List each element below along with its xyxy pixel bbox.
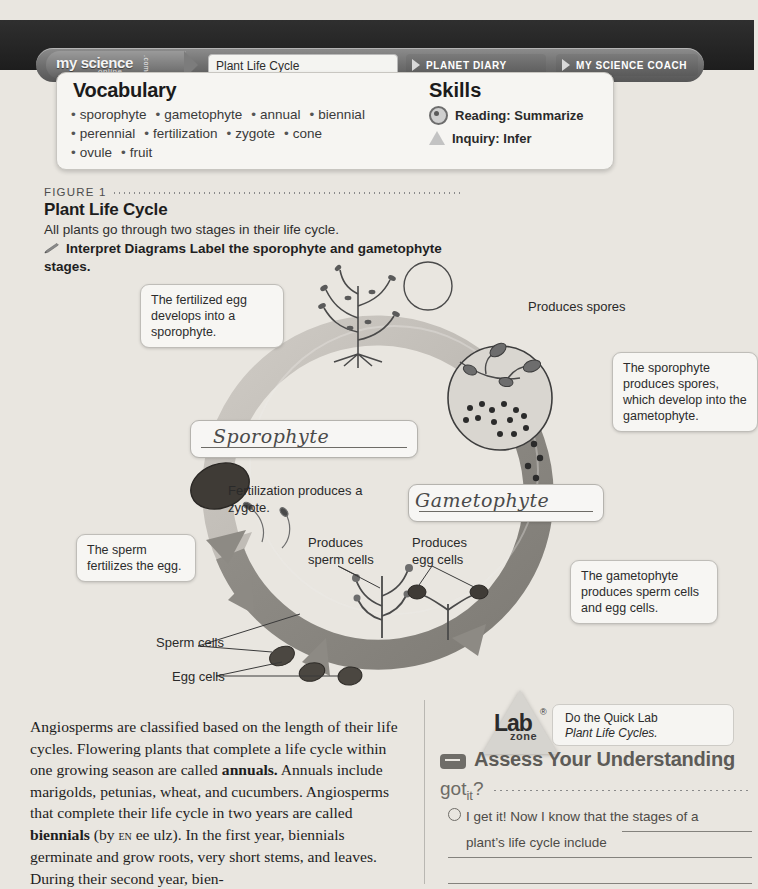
lab-zone-callout[interactable]: Lab ® zone Do the Quick Lab Plant Life C…: [482, 690, 742, 738]
label-produces-egg-cells: Produces egg cells: [412, 534, 492, 568]
callout-sperm-fertilizes-egg: The sperm fertilizes the egg.: [76, 534, 196, 582]
skill-item-reading: Reading: Summarize: [429, 105, 584, 125]
column-divider: [424, 700, 425, 884]
answer-blank-line[interactable]: [448, 883, 752, 884]
answer-underline: [419, 511, 593, 512]
answer-field-sporophyte[interactable]: Sporophyte: [190, 420, 418, 458]
got-it-dotted-rule: [492, 789, 750, 792]
tab-plant-life-cycle-label: Plant Life Cycle: [209, 59, 299, 73]
vocabulary-row: perennialfertilizationzygotecone: [71, 124, 441, 143]
skill-reading-label: Reading: Summarize: [455, 108, 584, 123]
vocabulary-term: annual: [251, 107, 300, 122]
callout-sporophyte-produces-spores: The sporophyte produces spores, which de…: [612, 352, 758, 432]
lab-instruction-line-2: Plant Life Cycles.: [565, 726, 658, 740]
vocabulary-skills-card: Vocabulary sporophytegametophyteannualbi…: [56, 72, 614, 170]
answer-blank-line[interactable]: [448, 857, 752, 858]
vocabulary-term: zygote: [227, 126, 276, 141]
figure-title: Plant Life Cycle: [44, 200, 167, 220]
callout-fertilized-egg: The fertilized egg develops into a sporo…: [140, 284, 284, 348]
body-paragraph: Angiosperms are classified based on the …: [30, 716, 398, 889]
got-it-label: gotit?: [440, 778, 484, 803]
skill-item-inquiry: Inquiry: Infer: [429, 128, 584, 148]
magnifier-circle-top: [404, 262, 452, 310]
got-it-radio-button[interactable]: [448, 808, 461, 821]
label-produces-sperm-cells: Produces sperm cells: [308, 534, 400, 568]
answer-field-gametophyte[interactable]: Gametophyte: [408, 484, 604, 522]
assess-question-line-1: I get it! Now I know that the stages of …: [466, 809, 699, 824]
assess-question: I get it! Now I know that the stages of …: [466, 804, 752, 856]
label-fertilization-zygote: Fertilization produces a zygote.: [228, 482, 378, 516]
answer-sporophyte-text: Sporophyte: [213, 425, 329, 447]
answer-blank-line[interactable]: [622, 831, 752, 832]
lab-zone-bubble: Do the Quick Lab Plant Life Cycles.: [552, 704, 734, 746]
assess-question-line-2: plant’s life cycle include: [466, 835, 607, 850]
vocabulary-row: ovulefruit: [71, 143, 441, 162]
chevron-right-icon: [412, 59, 420, 71]
vocabulary-term: fruit: [121, 145, 152, 160]
vocabulary-term: sporophyte: [71, 107, 147, 122]
label-egg-cells: Egg cells: [172, 668, 225, 685]
life-cycle-ring-graphic: [0, 258, 754, 698]
reading-target-icon: [429, 106, 448, 125]
skills-heading: Skills: [429, 79, 481, 102]
figure-dotted-rule: [112, 192, 460, 194]
vocabulary-term: ovule: [71, 145, 112, 160]
body-text-run: (by: [90, 826, 119, 843]
lab-zone-word: zone: [510, 730, 537, 742]
skill-inquiry-label: Inquiry: Infer: [452, 131, 531, 146]
top-navigation-bar: my science online .com Plant Life Cycle …: [0, 20, 754, 70]
gametophyte-sperm-plant: [356, 570, 408, 638]
vocabulary-term: cone: [284, 126, 322, 141]
vocabulary-term: perennial: [71, 126, 135, 141]
figure-task-bold: Interpret Diagrams: [44, 241, 186, 256]
assess-tag-icon: [440, 754, 466, 769]
figure-subtitle: All plants go through two stages in thei…: [44, 222, 339, 237]
registered-trademark-icon: ®: [540, 707, 547, 717]
body-text-run: biennials: [30, 826, 90, 843]
plant-life-cycle-diagram: The fertilized egg develops into a sporo…: [0, 258, 754, 698]
vocabulary-row: sporophytegametophyteannualbiennial: [71, 105, 441, 124]
skills-list: Reading: Summarize Inquiry: Infer: [429, 105, 584, 151]
vocabulary-heading: Vocabulary: [73, 79, 176, 102]
inquiry-triangle-icon: [429, 131, 445, 145]
callout-gametophyte-produces-cells: The gametophyte produces sperm cells and…: [570, 560, 718, 624]
assess-your-understanding-panel: Assess Your Understanding gotit? I get i…: [440, 745, 754, 884]
assess-title: Assess Your Understanding: [474, 748, 735, 771]
body-text-run: en: [118, 828, 131, 843]
figure-number: FIGURE 1: [44, 186, 107, 198]
lab-instruction-line-1: Do the Quick Lab: [565, 711, 658, 725]
label-produces-spores: Produces spores: [528, 298, 626, 315]
chevron-right-icon: [562, 59, 570, 71]
egg-cell-nodes: [408, 585, 488, 599]
body-text-run: annuals.: [222, 761, 278, 778]
vocabulary-term: biennial: [310, 107, 365, 122]
vocabulary-term-list: sporophytegametophyteannualbiennial pere…: [71, 105, 441, 162]
answer-underline: [201, 447, 407, 448]
tab-my-science-coach-label: MY SCIENCE COACH: [556, 60, 687, 71]
label-sperm-cells: Sperm cells: [156, 634, 224, 651]
vocabulary-term: gametophyte: [156, 107, 243, 122]
answer-gametophyte-text: Gametophyte: [415, 489, 549, 511]
tab-planet-diary-label: PLANET DIARY: [406, 60, 507, 71]
brand-line-3: .com: [143, 55, 150, 72]
vocabulary-term: fertilization: [144, 126, 217, 141]
